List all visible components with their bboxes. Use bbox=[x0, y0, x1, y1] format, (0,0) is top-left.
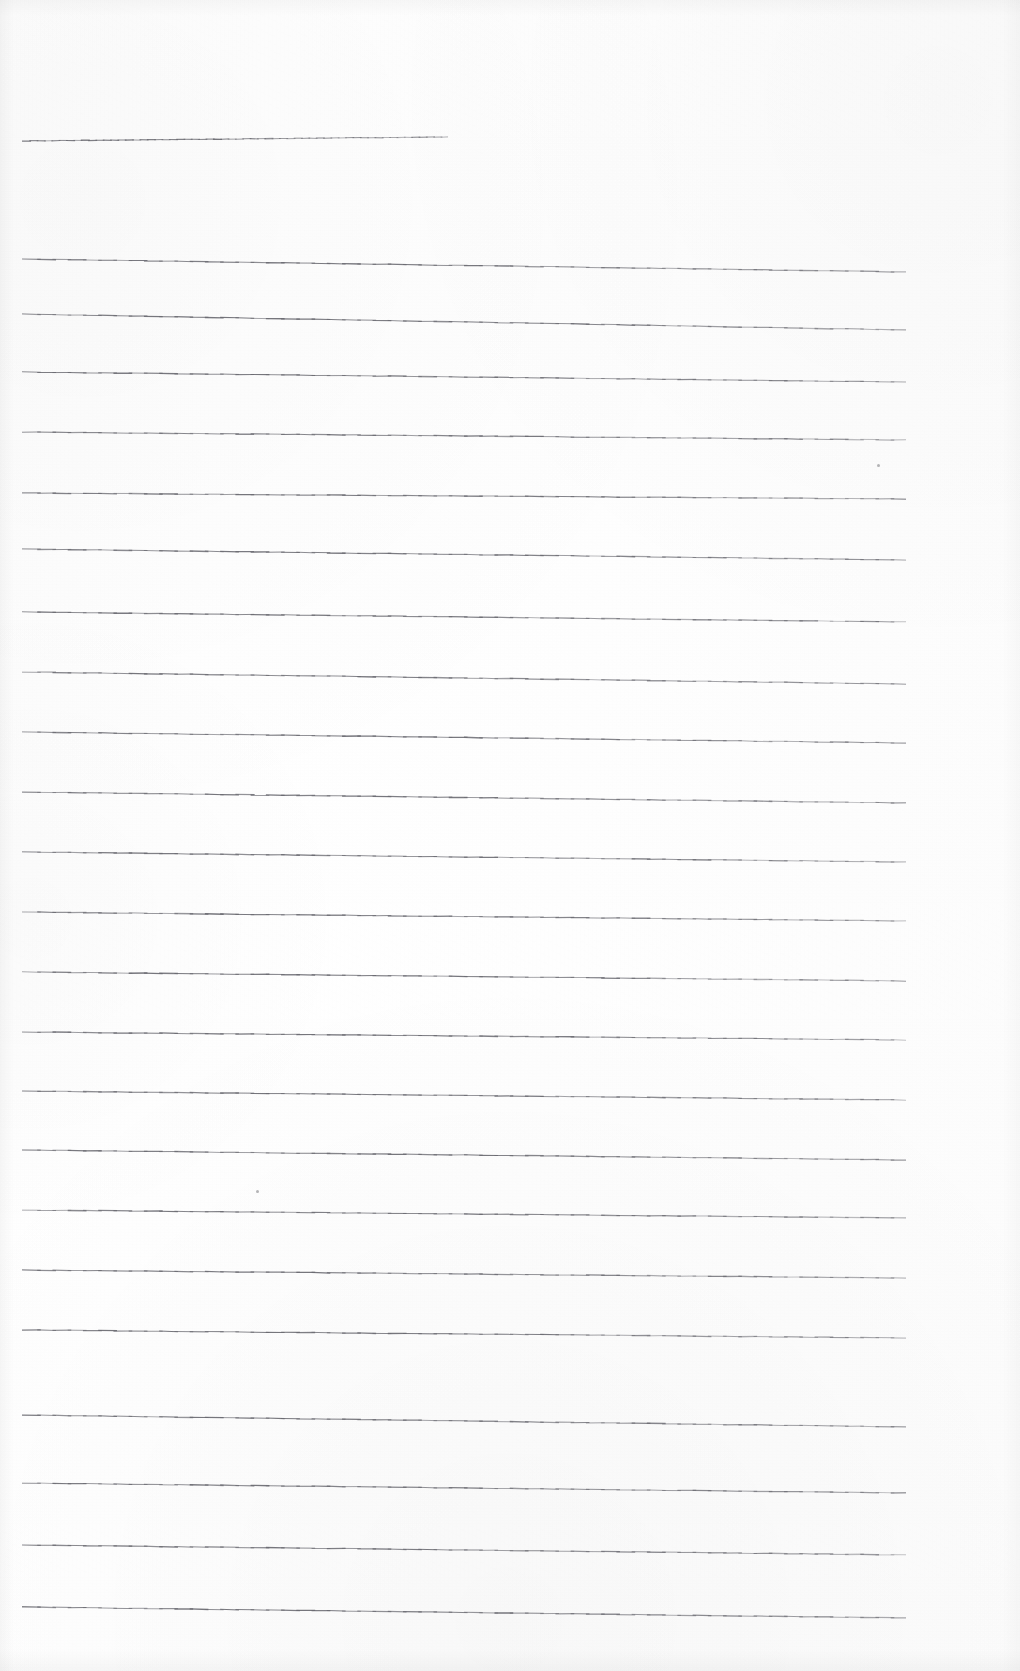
ruled-line bbox=[22, 1210, 906, 1218]
scan-speck bbox=[256, 1190, 259, 1193]
ruled-lines-layer bbox=[0, 0, 1020, 1671]
ruled-line bbox=[22, 1091, 906, 1100]
ruled-line bbox=[22, 1150, 906, 1160]
ruled-lines-svg bbox=[0, 0, 1020, 1671]
ruled-line bbox=[22, 732, 906, 743]
ruled-line bbox=[22, 1483, 906, 1493]
ruled-line bbox=[22, 672, 906, 684]
ruled-line bbox=[22, 1032, 906, 1040]
ruled-line bbox=[22, 259, 906, 272]
scan-speck bbox=[877, 464, 880, 467]
scanned-page bbox=[0, 0, 1020, 1671]
ruled-line bbox=[22, 137, 448, 141]
ruled-line bbox=[22, 372, 906, 382]
ruled-line bbox=[22, 612, 906, 622]
ruled-line bbox=[22, 1270, 906, 1278]
ruled-line bbox=[22, 912, 906, 921]
ruled-line bbox=[22, 792, 906, 803]
ruled-line bbox=[22, 314, 906, 330]
ruled-line bbox=[22, 493, 906, 499]
ruled-line bbox=[22, 549, 906, 560]
ruled-line bbox=[22, 852, 906, 862]
ruled-line bbox=[22, 1545, 906, 1555]
ruled-line bbox=[22, 972, 906, 981]
ruled-line bbox=[22, 432, 906, 440]
ruled-line bbox=[22, 1415, 906, 1427]
ruled-line bbox=[22, 1607, 906, 1618]
ruled-line bbox=[22, 1330, 906, 1338]
